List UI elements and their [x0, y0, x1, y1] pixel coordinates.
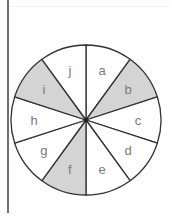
sector-label-f: f [68, 162, 72, 177]
sector-label-e: e [98, 162, 105, 177]
sector-label-b: b [124, 82, 131, 97]
sector-label-a: a [98, 63, 106, 78]
sector-label-g: g [40, 143, 47, 158]
center-dot [84, 118, 88, 122]
sector-label-j: j [67, 63, 71, 78]
divided-circle-diagram: a b c d e f g h i j [0, 0, 171, 215]
sector-label-d: d [124, 143, 131, 158]
sector-label-c: c [135, 113, 142, 128]
sector-label-i: i [42, 82, 45, 97]
sector-label-h: h [30, 113, 37, 128]
